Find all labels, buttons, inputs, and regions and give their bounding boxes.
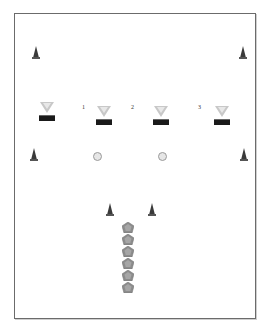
player-pentagon-icon xyxy=(122,219,134,230)
triangle-inner xyxy=(100,107,108,113)
bar-icon xyxy=(153,119,169,125)
triangle-inner xyxy=(157,107,165,113)
cone-icon xyxy=(31,148,37,160)
field-boundary xyxy=(14,13,256,319)
ball-icon xyxy=(93,152,102,161)
cone-icon xyxy=(107,203,113,215)
player-pentagon-icon xyxy=(122,279,134,290)
cone-icon xyxy=(241,148,247,160)
station-marker xyxy=(214,106,230,128)
player-pentagon-icon xyxy=(122,255,134,266)
triangle-inner xyxy=(43,103,51,109)
bar-icon xyxy=(39,115,55,121)
station-label: 1 xyxy=(82,104,85,110)
cone-icon xyxy=(33,46,39,58)
player-pentagon-icon xyxy=(122,243,134,254)
cone-icon xyxy=(240,46,246,58)
bar-icon xyxy=(214,119,230,125)
station-marker xyxy=(153,106,169,128)
bar-icon xyxy=(96,119,112,125)
station-marker xyxy=(96,106,112,128)
station-label: 3 xyxy=(198,104,201,110)
ball-icon xyxy=(158,152,167,161)
player-pentagon-icon xyxy=(122,267,134,278)
cone-icon xyxy=(149,203,155,215)
triangle-inner xyxy=(218,107,226,113)
station-label: 2 xyxy=(131,104,134,110)
player-pentagon-icon xyxy=(122,231,134,242)
station-marker xyxy=(39,102,55,124)
